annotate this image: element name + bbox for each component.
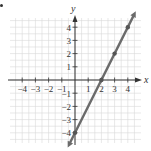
data-point: [112, 51, 116, 55]
data-point: [126, 25, 130, 29]
y-tick-label: −2: [61, 102, 71, 112]
y-tick-label: 1: [67, 62, 72, 72]
y-axis-label: y: [70, 3, 76, 14]
y-tick-label: 4: [67, 23, 72, 33]
y-tick-label: 2: [67, 49, 72, 59]
coordinate-plane: −4−3−2−11234−4−3−2−11234 x y: [0, 0, 151, 151]
y-tick-label: 3: [67, 36, 72, 46]
x-tick-label: 1: [86, 84, 91, 94]
x-tick-label: 3: [112, 84, 117, 94]
x-tick-label: 4: [126, 84, 131, 94]
x-tick-label: −2: [44, 84, 54, 94]
y-tick-label: −3: [61, 115, 71, 125]
data-point: [73, 131, 77, 135]
x-tick-label: −4: [17, 84, 27, 94]
x-tick-label: −3: [31, 84, 41, 94]
y-tick-label: −1: [61, 89, 71, 99]
data-line: [68, 11, 136, 147]
y-tick-label: −4: [61, 128, 71, 138]
data-point: [99, 78, 103, 82]
axes: [8, 15, 142, 145]
x-axis-label: x: [143, 74, 149, 85]
